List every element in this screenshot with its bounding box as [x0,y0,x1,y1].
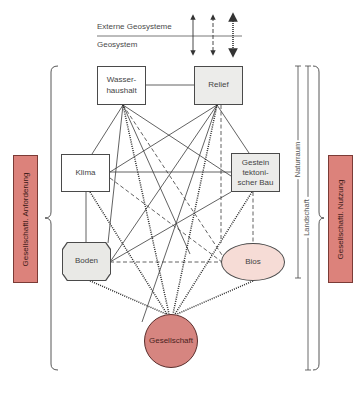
node-gestein-label: Gestein tektoni- scher Bau [237,158,273,188]
sidebar-left-label: Gesellschaftl. Anforderung [21,172,30,266]
sidebar-left-anforderung: Gesellschaftl. Anforderung [13,155,38,283]
node-relief[interactable]: Relief [194,66,243,105]
node-boden[interactable]: Boden [62,242,111,281]
legend-internal-label: Geosystem [97,41,137,49]
solid-connections [86,85,249,322]
node-wasserhaushalt[interactable]: Wasser- haushalt [97,66,146,105]
node-klima-label: Klima [75,168,95,179]
naturraum-label: Naturraum [293,140,302,179]
node-relief-label: Relief [208,80,228,91]
right-brace [313,66,324,370]
left-brace [45,66,58,370]
landschaft-label: Landschaft [302,197,311,238]
node-gesellschaft-label: Gesellschaft [149,336,193,347]
node-gesellschaft[interactable]: Gesellschaft [144,314,198,368]
legend-external-label: Externe Geosysteme [97,23,172,31]
node-wasserhaushalt-label: Wasser- haushalt [106,75,136,97]
node-bios[interactable]: Bios [221,243,285,281]
node-boden-label: Boden [75,256,98,267]
sidebar-right-nutzung: Gesellschaftl. Nutzung [328,155,353,283]
node-gestein[interactable]: Gestein tektoni- scher Bau [231,153,280,192]
sidebar-right-label: Gesellschaftl. Nutzung [336,179,345,259]
node-klima[interactable]: Klima [61,154,110,192]
node-bios-label: Bios [245,257,261,268]
